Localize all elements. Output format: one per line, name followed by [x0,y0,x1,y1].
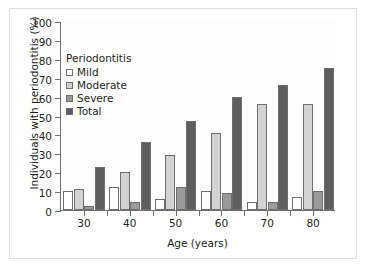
bar-total-50 [186,121,196,210]
bar-mild-30 [63,191,73,210]
x-axis-tick-label: 60 [201,217,241,230]
bar-moderate-60 [211,133,221,210]
y-axis-tick-label: 80 [39,53,52,69]
y-axis-tick: 10 [55,192,61,193]
bar-total-40 [141,142,151,210]
bar-group [247,22,289,210]
legend-item-label: Moderate [77,79,127,92]
x-axis-tick-label: 40 [110,217,150,230]
legend-swatch-icon [66,95,73,102]
x-axis-tick-label: 70 [247,217,287,230]
bar-moderate-40 [120,172,130,210]
bar-severe-70 [268,202,278,210]
x-axis-tick-label: 30 [64,217,104,230]
bar-severe-40 [130,202,140,210]
bar-mild-80 [292,197,302,210]
bar-severe-30 [84,206,94,210]
y-axis-tick-label: 20 [39,166,52,182]
y-axis-tick: 80 [55,60,61,61]
bar-total-80 [324,68,334,210]
y-axis-tick-label: 40 [39,128,52,144]
bar-mild-60 [201,191,211,210]
y-axis-tick: 40 [55,135,61,136]
legend-item-label: Mild [77,66,99,79]
bar-mild-70 [247,202,257,210]
legend-swatch-icon [66,69,73,76]
legend-title: Periodontitis [66,52,131,65]
y-axis-tick-label: 30 [39,147,52,163]
x-axis-tick [84,210,85,216]
legend-item-label: Total [77,105,102,118]
legend-item-severe: Severe [66,92,131,105]
bar-total-30 [95,167,105,210]
x-axis-tick [221,210,222,216]
legend-swatch-icon [66,108,73,115]
bar-moderate-80 [303,104,313,210]
legend-rows: MildModerateSevereTotal [66,66,131,118]
bar-mild-40 [109,187,119,210]
x-axis-tick-label: 80 [293,217,333,230]
y-axis-tick: 50 [55,117,61,118]
bar-total-60 [232,97,242,210]
legend-item-mild: Mild [66,66,131,79]
bar-mild-50 [155,199,165,210]
legend-item-label: Severe [77,92,113,105]
bar-moderate-70 [257,104,267,210]
bar-total-70 [278,85,288,210]
x-axis-tick [130,210,131,216]
bar-severe-60 [222,193,232,210]
x-axis-tick [267,210,268,216]
y-axis-tick: 30 [55,154,61,155]
y-axis-tick: 20 [55,173,61,174]
bar-moderate-30 [74,189,84,210]
x-axis-minor-tick [107,210,108,216]
x-axis-title: Age (years) [60,236,335,250]
bar-group [292,22,334,210]
y-axis-tick: 0 [55,211,61,212]
y-axis-tick-label: 10 [39,185,52,201]
bar-moderate-50 [165,155,175,210]
chart-figure: Individuals with periodontitis (%) 01020… [0,0,366,268]
x-axis-minor-tick [244,210,245,216]
y-axis-tick: 70 [55,79,61,80]
x-axis-minor-tick [199,210,200,216]
x-axis-tick [176,210,177,216]
bar-group [201,22,243,210]
y-axis-tick-label: 50 [39,110,52,126]
x-axis-minor-tick [153,210,154,216]
x-axis-minor-tick [290,210,291,216]
legend-item-moderate: Moderate [66,79,131,92]
legend-item-total: Total [66,105,131,118]
y-axis-tick-label: 0 [45,204,52,220]
bar-severe-50 [176,187,186,210]
y-axis-tick: 60 [55,98,61,99]
y-axis-tick-label: 70 [39,72,52,88]
bar-severe-80 [313,191,323,210]
y-axis-tick-label: 60 [39,91,52,107]
x-axis-tick-label: 50 [156,217,196,230]
x-axis-tick [313,210,314,216]
chart-legend: Periodontitis MildModerateSevereTotal [66,52,131,118]
y-axis-tick: 100 [55,22,61,23]
legend-swatch-icon [66,82,73,89]
bar-group [155,22,197,210]
y-axis-tick-label: 90 [39,34,52,50]
y-axis-tick-label: 100 [32,15,52,31]
y-axis-tick: 90 [55,41,61,42]
